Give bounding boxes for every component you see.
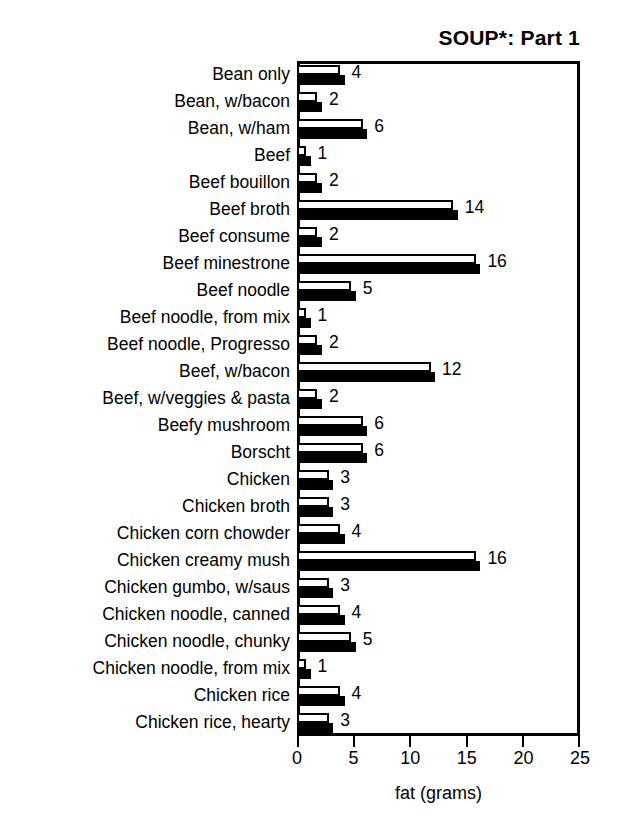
x-axis-tick-label: 5 <box>349 749 359 767</box>
x-axis-tick-label: 15 <box>457 749 477 767</box>
chart-row: Beef, w/veggies & pasta2 <box>297 385 580 412</box>
bar-value-label: 2 <box>329 226 339 244</box>
chart-row: Chicken gumbo, w/saus3 <box>297 574 580 601</box>
category-label: Beef consume <box>178 228 290 246</box>
category-label: Borscht <box>231 444 290 462</box>
chart-row: Beef consume2 <box>297 223 580 250</box>
bar-open <box>297 416 363 426</box>
category-label: Chicken broth <box>182 498 290 516</box>
chart-row: Chicken creamy mush16 <box>297 547 580 574</box>
category-label: Chicken <box>227 471 290 489</box>
bar-filled <box>300 642 356 652</box>
category-label: Chicken rice <box>194 687 290 705</box>
chart-row: Bean only4 <box>297 61 580 88</box>
bar-filled <box>300 75 345 85</box>
bar-value-label: 3 <box>340 577 350 595</box>
bar-filled <box>300 588 333 598</box>
category-label: Beef broth <box>209 201 290 219</box>
chart-row: Beef1 <box>297 142 580 169</box>
bar-value-label: 3 <box>340 712 350 730</box>
bar-open <box>297 605 340 615</box>
category-label: Beef minestrone <box>163 255 290 273</box>
bar-open <box>297 443 363 453</box>
bar-open <box>297 551 476 561</box>
category-label: Chicken corn chowder <box>117 525 290 543</box>
bar-open <box>297 146 306 156</box>
chart-row: Chicken rice4 <box>297 682 580 709</box>
chart-row: Bean, w/bacon2 <box>297 88 580 115</box>
bar-filled <box>300 615 345 625</box>
bar-open <box>297 227 317 237</box>
bar-filled <box>300 534 345 544</box>
category-label: Chicken noodle, chunky <box>104 633 290 651</box>
bar-value-label: 6 <box>374 118 384 136</box>
bar-value-label: 2 <box>329 334 339 352</box>
x-axis-tick-label: 25 <box>570 749 590 767</box>
chart-row: Beef bouillon2 <box>297 169 580 196</box>
bar-open <box>297 389 317 399</box>
bar-value-label: 3 <box>340 496 350 514</box>
bar-filled <box>300 183 322 193</box>
bar-open <box>297 335 317 345</box>
bar-filled <box>300 237 322 247</box>
bar-filled <box>300 102 322 112</box>
bar-open <box>297 686 340 696</box>
x-axis-tick <box>353 736 355 747</box>
bar-value-label: 3 <box>340 469 350 487</box>
category-label: Beef bouillon <box>189 174 290 192</box>
bar-open <box>297 713 329 723</box>
bar-value-label: 16 <box>487 253 506 271</box>
bar-filled <box>300 561 480 571</box>
bar-value-label: 6 <box>374 442 384 460</box>
bar-value-label: 2 <box>329 91 339 109</box>
bar-open <box>297 254 476 264</box>
x-axis-tick <box>466 736 468 747</box>
chart-root: SOUP*: Part 1 Bean only4Bean, w/bacon2Be… <box>0 0 627 837</box>
chart-row: Chicken3 <box>297 466 580 493</box>
x-axis-tick <box>297 736 299 747</box>
chart-title: SOUP*: Part 1 <box>0 26 580 50</box>
bar-open <box>297 92 317 102</box>
bar-open <box>297 65 340 75</box>
chart-row: Chicken noodle, canned4 <box>297 601 580 628</box>
chart-row: Chicken broth3 <box>297 493 580 520</box>
chart-row: Beef noodle, from mix1 <box>297 304 580 331</box>
bar-value-label: 4 <box>352 523 362 541</box>
category-label: Beef noodle, from mix <box>120 309 290 327</box>
bar-open <box>297 524 340 534</box>
chart-row: Chicken noodle, from mix1 <box>297 655 580 682</box>
bar-open <box>297 308 306 318</box>
category-label: Bean, w/ham <box>188 120 290 138</box>
bar-open <box>297 497 329 507</box>
bar-value-label: 4 <box>352 64 362 82</box>
x-axis-tick <box>578 736 580 747</box>
bar-filled <box>300 318 311 328</box>
bar-filled <box>300 129 367 139</box>
bar-filled <box>300 210 458 220</box>
bar-value-label: 2 <box>329 172 339 190</box>
category-label: Bean, w/bacon <box>174 93 290 111</box>
bar-value-label: 6 <box>374 415 384 433</box>
bar-filled <box>300 480 333 490</box>
bar-open <box>297 200 453 210</box>
category-label: Beef <box>254 147 290 165</box>
x-axis-tick-label: 20 <box>513 749 533 767</box>
chart-row: Beef broth14 <box>297 196 580 223</box>
bar-filled <box>300 372 435 382</box>
bar-open <box>297 281 351 291</box>
bar-filled <box>300 507 333 517</box>
bar-open <box>297 578 329 588</box>
bar-value-label: 1 <box>318 658 328 676</box>
category-label: Beefy mushroom <box>158 417 290 435</box>
bar-value-label: 4 <box>352 685 362 703</box>
chart-row: Borscht6 <box>297 439 580 466</box>
category-label: Chicken creamy mush <box>117 552 290 570</box>
x-axis-title: fat (grams) <box>297 783 580 804</box>
chart-row: Beef, w/bacon12 <box>297 358 580 385</box>
bar-filled <box>300 426 367 436</box>
bar-value-label: 4 <box>352 604 362 622</box>
chart-row: Beef noodle, Progresso2 <box>297 331 580 358</box>
bar-open <box>297 119 363 129</box>
bar-filled <box>300 669 311 679</box>
x-axis-tick <box>409 736 411 747</box>
